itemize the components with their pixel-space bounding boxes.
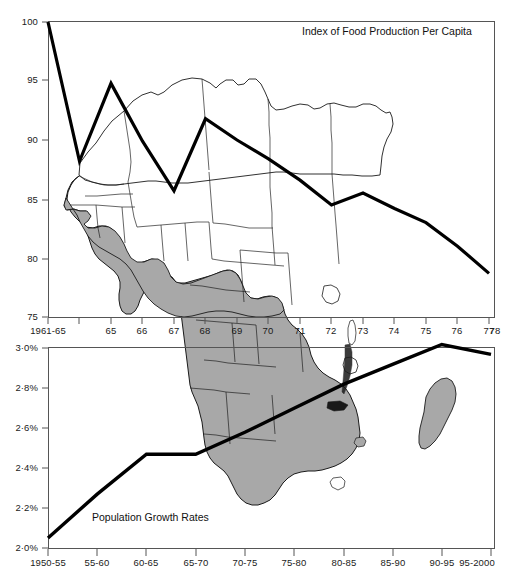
bottom-ytick-2-8: 2·8%: [0, 382, 38, 393]
bottom-xtick-55-60: 55-60: [70, 557, 124, 568]
bottom-xtick-85-90: 85-90: [366, 557, 420, 568]
top-ytick-95: 95: [8, 74, 38, 85]
top-xtick-68: 68: [191, 325, 219, 336]
map-layer: [64, 78, 456, 505]
top-xtick-74: 74: [380, 325, 408, 336]
top-xtick-78: 78: [481, 325, 507, 336]
top-ytick-85: 85: [8, 194, 38, 205]
bottom-ytick-2-4: 2·4%: [0, 462, 38, 473]
top-ytick-80: 80: [8, 253, 38, 264]
top-xtick-73: 73: [349, 325, 377, 336]
top-ytick-100: 100: [8, 16, 38, 27]
bottom-xtick-75-80: 75-80: [267, 557, 321, 568]
bottom-ytick-2-0: 2·0%: [0, 542, 38, 553]
bottom-xtick-80-85: 80-85: [317, 557, 371, 568]
bottom-xtick-65-70: 65-70: [169, 557, 223, 568]
top-chart-title: Index of Food Production Per Capita: [302, 25, 472, 37]
top-xtick-1961-65: 1961-65: [19, 325, 77, 336]
top-ytick-90: 90: [8, 134, 38, 145]
bottom-xtick-70-75: 70-75: [218, 557, 272, 568]
bottom-ytick-2-2: 2·2%: [0, 502, 38, 513]
bottom-chart-title: Population Growth Rates: [92, 511, 209, 523]
top-xtick-75: 75: [412, 325, 440, 336]
top-xtick-67: 67: [160, 325, 188, 336]
top-xtick-65: 65: [97, 325, 125, 336]
top-xtick-76: 76: [443, 325, 471, 336]
top-xtick-66: 66: [128, 325, 156, 336]
bottom-xtick-1950-55: 1950-55: [19, 557, 77, 568]
bottom-ytick-2-6: 2·6%: [0, 422, 38, 433]
africa-map: [0, 0, 507, 578]
bottom-xtick-95-2000: 95-2000: [448, 557, 506, 568]
bottom-ytick-3-0: 3·0%: [0, 342, 38, 353]
top-xtick-71: 71: [286, 325, 314, 336]
top-xtick-70: 70: [254, 325, 282, 336]
bottom-xtick-60-65: 60-65: [119, 557, 173, 568]
top-xtick-69: 69: [223, 325, 251, 336]
top-ytick-75: 75: [8, 311, 38, 322]
top-xtick-72: 72: [317, 325, 345, 336]
figure-container: Index of Food Production Per Capita 100 …: [0, 0, 507, 578]
